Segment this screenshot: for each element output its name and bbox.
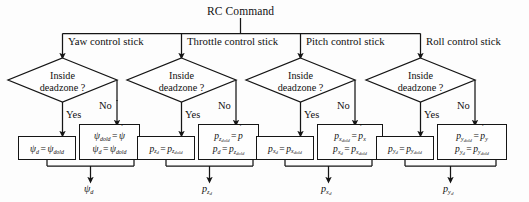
formula-no-pitch-2: pxd=pxdold (333, 142, 367, 155)
decision-line1: Inside (20, 70, 105, 82)
formula-no-yaw-1: ψdold=ψ̇ (94, 129, 125, 142)
formula-no-roll-2: pyd=pydold (455, 142, 489, 155)
edge-label-no-pitch: No (337, 101, 350, 112)
formula-no-throttle-1: pzdold=ṗ (214, 129, 243, 142)
branch-label-roll: Roll control stick (426, 36, 501, 47)
decision-line2: deadzone ? (258, 82, 343, 94)
edge-label-yes-throttle: Yes (185, 110, 200, 121)
branch-label-pitch: Pitch control stick (306, 36, 385, 47)
decision-label-yaw: Inside deadzone ? (20, 70, 105, 93)
formula-yes-yaw-1: ψd=ψdold (30, 142, 64, 155)
process-box-no-yaw: ψdold=ψ̇ ψd=ψdold (79, 124, 140, 160)
edge-label-yes-yaw: Yes (66, 110, 81, 121)
output-label-throttle: pzd (202, 184, 212, 194)
edge-label-no-throttle: No (218, 101, 231, 112)
process-box-yes-yaw: ψd=ψdold (18, 136, 76, 160)
edge-label-yes-pitch: Yes (304, 110, 319, 121)
decision-label-roll: Inside deadzone ? (378, 70, 463, 93)
process-box-yes-pitch: pxd=pxdold (256, 136, 314, 160)
output-label-pitch: pxd (321, 184, 331, 194)
decision-label-throttle: Inside deadzone ? (139, 70, 224, 93)
decision-line1: Inside (258, 70, 343, 82)
formula-no-pitch-1: pxdold=ṗx (334, 129, 366, 142)
process-box-no-throttle: pzdold=ṗ pd=pzdold (198, 124, 259, 160)
decision-line2: deadzone ? (139, 82, 224, 94)
process-box-yes-roll: pyd=pydold (376, 136, 434, 160)
edge-label-yes-roll: Yes (424, 110, 439, 121)
flowchart-canvas: RC Command Yaw control stick Throttle co… (0, 0, 529, 202)
edge-label-no-roll: No (457, 101, 470, 112)
decision-label-pitch: Inside deadzone ? (258, 70, 343, 93)
output-label-roll: pyd (443, 184, 453, 194)
process-box-no-pitch: pxdold=ṗx pxd=pxdold (317, 124, 383, 160)
process-box-yes-throttle: pzd=pzdold (137, 136, 195, 160)
decision-line2: deadzone ? (378, 82, 463, 94)
edge-label-no-yaw: No (99, 101, 112, 112)
branch-label-yaw: Yaw control stick (68, 36, 144, 47)
formula-yes-throttle-1: pzd=pzdold (149, 142, 182, 155)
flowchart-connectors (0, 0, 529, 202)
formula-yes-roll-1: pyd=pydold (388, 142, 422, 155)
output-label-yaw: ψd (84, 184, 93, 194)
root-node-label: RC Command (207, 6, 274, 18)
process-box-no-roll: pydold=ṗy pyd=pydold (437, 124, 507, 160)
formula-yes-pitch-1: pxd=pxdold (268, 142, 302, 155)
decision-line1: Inside (139, 70, 224, 82)
decision-line1: Inside (378, 70, 463, 82)
formula-no-throttle-2: pd=pzdold (213, 142, 245, 155)
branch-label-throttle: Throttle control stick (187, 36, 278, 47)
formula-no-roll-1: pydold=ṗy (456, 129, 488, 142)
decision-line2: deadzone ? (20, 82, 105, 94)
formula-no-yaw-2: ψd=ψdold (93, 142, 127, 155)
